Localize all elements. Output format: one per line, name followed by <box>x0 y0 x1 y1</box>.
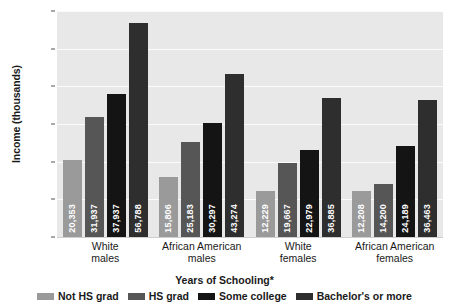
bar-group: 15,80625,18330,29743,274 <box>154 11 251 237</box>
y-axis-tick-mark <box>51 86 55 87</box>
x-axis-tick-label-line: African American <box>154 240 251 252</box>
y-axis-tick-mark <box>51 124 55 125</box>
bar[interactable]: 12,208 <box>352 191 371 237</box>
bar-value-label: 36,885 <box>327 204 336 233</box>
bar[interactable]: 43,274 <box>225 74 244 237</box>
bar-value-label: 36,463 <box>423 204 432 233</box>
bar-value-label: 12,208 <box>357 204 366 233</box>
bar-group: 12,20814,20024,18936,463 <box>347 11 444 237</box>
bar[interactable]: 37,937 <box>107 94 126 237</box>
x-axis-tick-label: African Americanmales <box>154 240 251 264</box>
x-axis-tick-labels: WhitemalesAfrican AmericanmalesWhitefema… <box>57 240 443 264</box>
bar-value-label: 12,229 <box>261 204 270 233</box>
x-axis-tick-label: Whitefemales <box>250 240 347 264</box>
bar[interactable]: 56,788 <box>129 23 148 237</box>
legend-swatch <box>37 293 54 300</box>
legend-item[interactable]: HS grad <box>128 290 189 302</box>
x-axis-tick-label-line: males <box>57 252 154 264</box>
legend-swatch <box>198 293 215 300</box>
bar[interactable]: 30,297 <box>203 123 222 237</box>
gridline <box>57 237 443 238</box>
bar-value-label: 19,667 <box>283 204 292 233</box>
bar-value-label: 15,806 <box>164 204 173 233</box>
x-axis-tick-label-line: African American <box>347 240 444 252</box>
bar[interactable]: 36,463 <box>418 100 437 237</box>
bar-value-label: 25,183 <box>186 204 195 233</box>
y-axis-tick-mark <box>51 237 55 238</box>
bar[interactable]: 14,200 <box>374 184 393 237</box>
bar-value-label: 56,788 <box>134 204 143 233</box>
bar-value-label: 43,274 <box>230 204 239 233</box>
y-axis-tick-mark <box>51 11 55 12</box>
x-axis-tick-label-line: males <box>154 252 251 264</box>
plot-area: $60$50$40$30$20$10$0 20,35331,93737,9375… <box>57 11 443 237</box>
bar-value-label: 31,937 <box>90 204 99 233</box>
legend-label: HS grad <box>149 290 189 302</box>
bar[interactable]: 15,806 <box>159 177 178 237</box>
x-axis-tick-label-line: females <box>347 252 444 264</box>
bar[interactable]: 22,979 <box>300 150 319 237</box>
x-axis-title: Years of Schooling* <box>0 274 449 286</box>
legend-item[interactable]: Some college <box>198 290 287 302</box>
bar-group: 12,22919,66722,97936,885 <box>250 11 347 237</box>
bar[interactable]: 20,353 <box>63 160 82 237</box>
bar[interactable]: 25,183 <box>181 142 200 237</box>
bar[interactable]: 36,885 <box>322 98 341 237</box>
bar-value-label: 37,937 <box>112 204 121 233</box>
legend-label: Bachelor's or more <box>317 290 412 302</box>
legend-item[interactable]: Bachelor's or more <box>296 290 412 302</box>
legend-swatch <box>296 293 313 300</box>
x-axis-tick-label: Whitemales <box>57 240 154 264</box>
bar[interactable]: 19,667 <box>278 163 297 237</box>
bar-value-label: 14,200 <box>379 204 388 233</box>
y-axis-tick-mark <box>51 48 55 49</box>
legend-item[interactable]: Not HS grad <box>37 290 119 302</box>
legend: Not HS gradHS gradSome collegeBachelor's… <box>0 290 449 302</box>
x-axis-tick-label: African Americanfemales <box>347 240 444 264</box>
bar-value-label: 22,979 <box>305 204 314 233</box>
bar[interactable]: 31,937 <box>85 117 104 237</box>
bar-value-label: 24,189 <box>401 204 410 233</box>
y-axis-tick-mark <box>51 161 55 162</box>
x-axis-tick-label-line: White <box>57 240 154 252</box>
bar-chart: Income (thousands) $60$50$40$30$20$10$0 … <box>0 0 449 303</box>
legend-label: Some college <box>219 290 287 302</box>
y-axis-title: Income (thousands) <box>10 14 22 214</box>
bar[interactable]: 12,229 <box>256 191 275 237</box>
bar-value-label: 30,297 <box>208 204 217 233</box>
y-axis-tick-mark <box>51 199 55 200</box>
bar[interactable]: 24,189 <box>396 146 415 237</box>
x-axis-tick-label-line: White <box>250 240 347 252</box>
legend-label: Not HS grad <box>58 290 119 302</box>
bar-value-label: 20,353 <box>68 204 77 233</box>
bar-group: 20,35331,93737,93756,788 <box>57 11 154 237</box>
legend-swatch <box>128 293 145 300</box>
x-axis-tick-label-line: females <box>250 252 347 264</box>
bar-groups: 20,35331,93737,93756,78815,80625,18330,2… <box>57 11 443 237</box>
